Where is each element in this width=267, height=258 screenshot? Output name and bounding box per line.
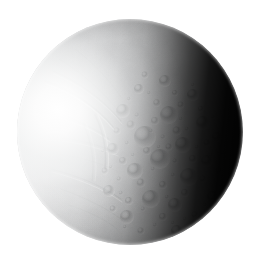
image-canvas (0, 0, 267, 258)
enceladus-disc (17, 19, 243, 245)
limb-edge-feather (17, 19, 243, 245)
